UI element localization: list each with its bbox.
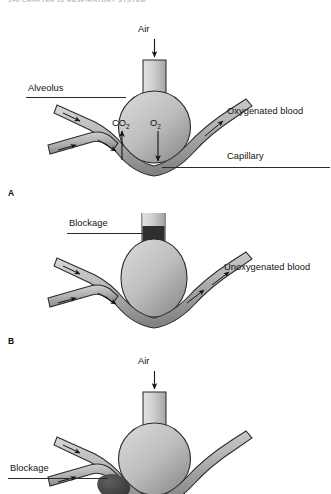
panel-c-label-blockage: Blockage [10,463,49,473]
panel-a-label-oxygenated-blood: Oxygenated blood [227,106,303,116]
panel-a-alveolus-leader [26,97,126,98]
panel-c-blockage-leader [8,478,108,479]
panel-letter-b: B [8,336,14,346]
panel-a-label-co2: CO2 [112,118,130,130]
panel-b-blockage-leader [67,233,143,234]
panel-letter-a: A [8,188,14,198]
panel-a-label-air: Air [138,24,150,34]
panel-b-artwork [48,213,252,328]
figure-artwork [0,0,331,494]
panel-a-capillary-leader [162,167,330,168]
panel-a-label-capillary: Capillary [227,151,264,161]
panel-a-label-alveolus: Alveolus [28,83,64,93]
panel-a-label-o2: O2 [150,118,161,130]
panel-b-label-unoxygenated-blood: Unoxygenated blood [224,262,310,272]
panel-c-label-air: Air [138,356,150,366]
panel-c-artwork [48,371,252,494]
panel-a-artwork [48,39,252,176]
panel-b-label-blockage: Blockage [69,218,108,228]
respiratory-gas-exchange-figure: 146 CHAPTER 12 RESPIRATORY SYSTEM [0,0,331,494]
